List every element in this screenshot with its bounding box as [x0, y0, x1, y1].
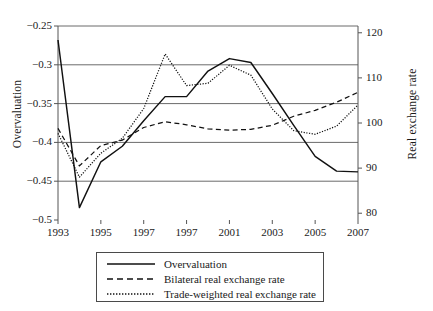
y-axis-ticks-right [358, 33, 362, 213]
plot-area [58, 26, 358, 220]
legend-swatch-dashed-icon [105, 274, 157, 284]
x-tick-label: 1995 [80, 226, 122, 238]
x-tick-label: 2005 [294, 226, 336, 238]
chart-canvas [58, 26, 358, 220]
legend-label: Bilateral real exchange rate [164, 273, 285, 285]
y-tick-label-left: −0.45 [10, 174, 52, 186]
legend-label: Trade-weighted real exchange rate [164, 288, 316, 300]
legend-item-trade-weighted-rer: Trade-weighted real exchange rate [97, 287, 323, 301]
chart-figure: Overvaluation Real exchange rate −0.25−0… [0, 0, 433, 311]
y-tick-label-left: −0.35 [10, 97, 52, 109]
chart-legend: Overvaluation Bilateral real exchange ra… [96, 252, 324, 302]
series-line [58, 54, 358, 177]
legend-item-overvaluation: Overvaluation [97, 257, 323, 271]
legend-item-bilateral-rer: Bilateral real exchange rate [97, 272, 323, 286]
x-tick-label: 1993 [37, 226, 79, 238]
x-tick-label: 1997 [166, 226, 208, 238]
y-tick-label-left: −0.4 [10, 135, 52, 147]
y-axis-title-right: Real exchange rate [406, 54, 418, 174]
y-tick-label-right: 120 [366, 26, 400, 38]
y-axis-title-left: Overvaluation [11, 54, 23, 174]
legend-swatch-dotted-icon [105, 289, 157, 299]
y-tick-label-left: −0.5 [10, 213, 52, 225]
y-tick-label-right: 80 [366, 206, 400, 218]
x-axis-ticks [58, 220, 358, 224]
x-tick-label: 2001 [208, 226, 250, 238]
gridlines [58, 26, 358, 220]
x-tick-label: 1997 [123, 226, 165, 238]
x-tick-label: 2003 [251, 226, 293, 238]
y-tick-label-right: 90 [366, 161, 400, 173]
y-tick-label-left: −0.25 [10, 19, 52, 31]
y-axis-ticks-left [54, 26, 58, 220]
legend-label: Overvaluation [164, 258, 227, 270]
y-tick-label-right: 110 [366, 71, 400, 83]
x-tick-label: 2007 [337, 226, 379, 238]
legend-swatch-solid-icon [105, 259, 157, 269]
y-tick-label-right: 100 [366, 116, 400, 128]
y-tick-label-left: −0.3 [10, 58, 52, 70]
